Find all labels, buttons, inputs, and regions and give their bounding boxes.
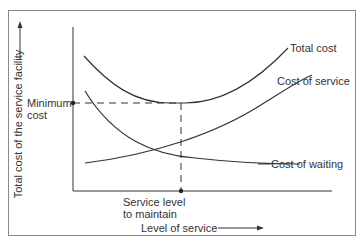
x-axis-label: Level of service bbox=[141, 222, 217, 234]
service-level-label-1: Service level bbox=[123, 196, 185, 208]
label-connectors bbox=[0, 0, 364, 247]
service-level-label-2: to maintain bbox=[123, 208, 177, 220]
